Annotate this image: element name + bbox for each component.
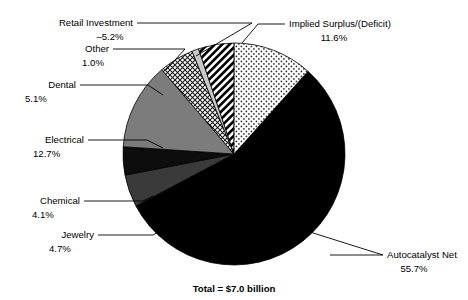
label-chemical-value: 4.1%: [32, 209, 54, 220]
label-chemical-name: Chemical: [40, 195, 80, 206]
label-retail-investment-name: Retail Investment: [59, 17, 133, 28]
pie-chart-figure: Retail Investment –5.2% Other 1.0% Denta…: [0, 0, 468, 300]
label-implied-surplus-value: 11.6%: [321, 32, 348, 43]
pie-chart-svg: Retail Investment –5.2% Other 1.0% Denta…: [0, 0, 468, 300]
label-implied-surplus-name: Implied Surplus/(Deficit): [289, 18, 391, 29]
label-jewelry-value: 4.7%: [49, 243, 71, 254]
label-jewelry-name: Jewelry: [61, 229, 94, 240]
label-dental-name: Dental: [48, 79, 76, 90]
pie-slices-render: [123, 43, 345, 265]
label-autocatalyst-name: Autocatalyst Net: [387, 249, 457, 260]
label-other-value: 1.0%: [82, 57, 104, 68]
label-other-name: Other: [85, 43, 110, 54]
label-dental-value: 5.1%: [25, 93, 47, 104]
label-autocatalyst-value: 55.7%: [400, 263, 428, 274]
label-electrical-name: Electrical: [45, 134, 84, 145]
total-label: Total = $7.0 billion: [193, 283, 276, 294]
label-retail-investment-value: –5.2%: [96, 31, 124, 42]
label-electrical-value: 12.7%: [33, 148, 61, 159]
